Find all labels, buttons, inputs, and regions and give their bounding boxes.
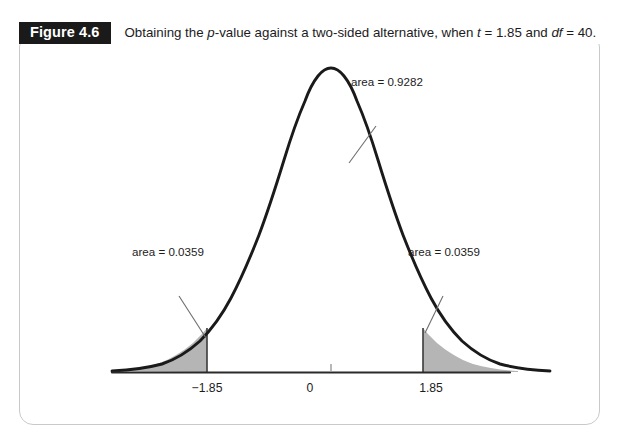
leader-line-left-area bbox=[179, 296, 206, 338]
caption-segment-3: = 1.85 and bbox=[481, 25, 552, 40]
distribution-plot bbox=[19, 33, 600, 425]
caption-segment-1: Obtaining the bbox=[125, 25, 208, 40]
x-tick-label-negative: −1.85 bbox=[178, 382, 236, 394]
caption-italic-p: p bbox=[207, 25, 214, 40]
caption-segment-4: = 40. bbox=[563, 25, 597, 40]
figure-number-badge: Figure 4.6 bbox=[19, 22, 111, 44]
x-tick-label-positive: 1.85 bbox=[402, 382, 460, 394]
figure-caption-row: Figure 4.6 Obtaining the p-value against… bbox=[19, 22, 602, 44]
x-tick-label-zero: 0 bbox=[284, 382, 336, 394]
center-area-label: area = 0.9282 bbox=[351, 76, 423, 88]
t-distribution-curve bbox=[112, 68, 550, 371]
caption-italic-df: df bbox=[551, 25, 562, 40]
right-tail-area-label: area = 0.0359 bbox=[408, 246, 480, 258]
left-tail-area-label: area = 0.0359 bbox=[132, 246, 204, 258]
figure-caption-text: Obtaining the p-value against a two-side… bbox=[125, 26, 597, 39]
caption-segment-2: -value against a two-sided alternative, … bbox=[215, 25, 477, 40]
